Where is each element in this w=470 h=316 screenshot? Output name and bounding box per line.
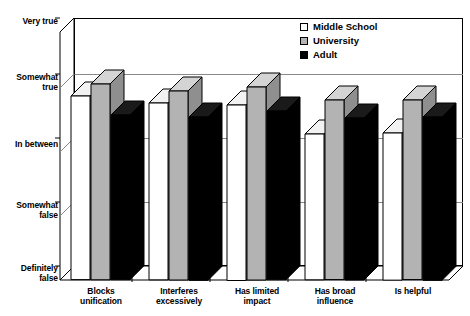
bar-blocks-unification-middle-school xyxy=(71,96,90,280)
legend-item-middle-school: Middle School xyxy=(300,20,377,33)
legend-item-adult: Adult xyxy=(300,48,377,61)
x-tick-label-has-broad-influence: Has broadinfluence xyxy=(296,286,374,306)
bar-has-limited-impact-adult xyxy=(267,111,286,280)
legend-swatch-university xyxy=(300,37,308,45)
bar-3d-shape xyxy=(423,103,458,282)
bar-has-limited-impact-middle-school xyxy=(227,105,246,281)
legend-label-adult: Adult xyxy=(313,49,337,60)
bar-has-broad-influence-university xyxy=(325,100,344,280)
chart-legend: Middle School University Adult xyxy=(300,20,377,62)
chart-figure: Very true Somewhattrue In between Somewh… xyxy=(0,0,470,316)
x-tick-label-has-limited-impact: Has limitedimpact xyxy=(218,286,296,306)
bar-has-broad-influence-adult xyxy=(345,118,364,280)
x-tick-label-blocks-unification: Blocksunification xyxy=(62,286,140,306)
x-tick-label-is-helpful: Is helpful xyxy=(374,286,452,296)
bar-3d-shape xyxy=(267,97,302,282)
bar-is-helpful-university xyxy=(403,100,422,280)
y-tick-label-somewhat-false: Somewhatfalse xyxy=(0,201,58,220)
legend-label-university: University xyxy=(313,35,359,46)
bar-interferes-excessively-university xyxy=(169,91,188,280)
legend-swatch-middle-school xyxy=(300,23,308,31)
y-tick-label-very-true: Very true xyxy=(0,17,58,27)
bar-interferes-excessively-adult xyxy=(189,117,208,280)
y-tick-label-definitely-false: Definitelyfalse xyxy=(0,264,58,283)
plot-area xyxy=(60,18,464,284)
bar-3d-shape xyxy=(111,101,146,282)
bar-is-helpful-adult xyxy=(423,117,442,280)
bar-3d-shape xyxy=(189,103,224,282)
bar-3d-shape xyxy=(345,104,380,282)
legend-item-university: University xyxy=(300,34,377,47)
y-tick-label-somewhat-true: Somewhattrue xyxy=(0,73,58,92)
bar-blocks-unification-adult xyxy=(111,115,130,280)
y-axis-labels: Very true Somewhattrue In between Somewh… xyxy=(0,0,58,316)
y-tick-label-in-between: In between xyxy=(0,140,58,150)
bar-interferes-excessively-middle-school xyxy=(149,103,168,280)
legend-label-middle-school: Middle School xyxy=(313,21,377,32)
bar-has-limited-impact-university xyxy=(247,87,266,280)
bar-is-helpful-middle-school xyxy=(383,133,402,280)
bar-has-broad-influence-middle-school xyxy=(305,134,324,280)
x-tick-label-interferes-excessively: Interferesexcessively xyxy=(140,286,218,306)
legend-swatch-adult xyxy=(300,51,308,59)
bar-blocks-unification-university xyxy=(91,84,110,280)
